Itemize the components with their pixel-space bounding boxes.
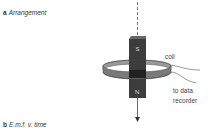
pole-north-label: N (135, 89, 139, 95)
panel-letter-b: b (3, 121, 7, 128)
wire-lower (170, 72, 196, 83)
arrow-down-icon (135, 117, 140, 122)
magnet-coil-diagram: S N coil to data recorder (0, 0, 211, 139)
panel-title-b: E.m.f. v. time (9, 121, 46, 128)
recorder-label-line2: recorder (173, 97, 198, 104)
coil-label: coil (165, 53, 175, 60)
coil-front-over-magnet (129, 71, 146, 78)
pole-south-label: S (136, 46, 140, 52)
wire-upper (170, 65, 200, 70)
caption-emf-vs-time: bE.m.f. v. time (3, 121, 46, 128)
recorder-label-line1: to data (173, 87, 193, 94)
magnet-top-face (129, 36, 146, 39)
